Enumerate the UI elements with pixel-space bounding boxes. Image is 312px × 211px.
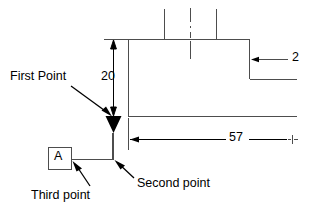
dimension-2-group — [251, 57, 288, 62]
dim-57-arrow-left — [130, 137, 139, 143]
callout-first-point-leader — [71, 86, 112, 117]
technical-drawing-canvas: First Point Second point Third point 20 … — [0, 0, 312, 211]
callout-label-first-point: First Point — [10, 70, 66, 83]
datum-leader-group — [72, 133, 114, 160]
callout-label-second-point: Second point — [137, 177, 210, 190]
third-point-leader-arrowhead — [73, 161, 83, 172]
dim-2-arrow-left — [251, 57, 259, 62]
dim-20-arrow-bottom — [111, 107, 117, 116]
datum-letter-label: A — [54, 150, 62, 163]
callout-third-point-leader — [73, 161, 91, 186]
first-point-marker-icon — [106, 116, 122, 133]
dim-20-arrow-top — [111, 40, 117, 49]
dimension-57-group — [129, 118, 299, 150]
dim-57-end-tick — [288, 135, 298, 144]
dimension-value-57: 57 — [229, 131, 243, 144]
dimension-value-2: 2 — [292, 51, 299, 64]
part-outline — [128, 40, 297, 118]
dimension-value-20: 20 — [101, 70, 115, 83]
callout-label-third-point: Third point — [31, 189, 90, 202]
first-point-leader-line — [71, 86, 108, 113]
callout-second-point-leader — [115, 160, 135, 178]
